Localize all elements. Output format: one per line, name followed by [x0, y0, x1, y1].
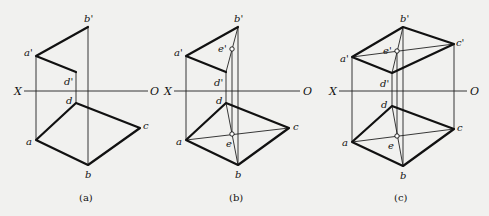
point-e-prime: [395, 49, 399, 53]
label-a: a: [342, 137, 348, 148]
panel-c: X O b' a' c' e' d' d a e b c (c): [328, 13, 479, 203]
label-b-prime: b': [234, 13, 243, 24]
label-a-prime: a': [340, 53, 349, 64]
label-c: c: [457, 122, 463, 133]
axis-label-x: X: [13, 85, 23, 98]
label-c-prime: c': [456, 37, 464, 48]
label-d-prime: d': [64, 76, 73, 87]
point-e: [395, 134, 399, 138]
projection-diagram: X O b' a' d' d a b c (a) X O: [0, 0, 489, 216]
label-a: a: [176, 136, 182, 147]
panel-b: X O b' a' e' d' d a e b c (b): [163, 13, 312, 203]
label-d: d: [216, 95, 222, 106]
frontal-projection-partial: [36, 27, 88, 72]
label-e-prime: e': [218, 43, 227, 54]
point-e-prime: [230, 47, 234, 51]
caption-b: (b): [229, 192, 243, 203]
label-b: b: [400, 170, 406, 181]
label-e: e: [226, 138, 232, 149]
label-b: b: [235, 169, 241, 180]
axis-label-o: O: [303, 85, 312, 98]
label-d: d: [381, 99, 387, 110]
label-a-prime: a': [174, 47, 183, 58]
axis-label-x: X: [163, 85, 173, 98]
axis-label-o: O: [470, 85, 479, 98]
label-b-prime: b': [400, 13, 409, 24]
point-e: [230, 132, 234, 136]
label-e-prime: e': [383, 45, 392, 56]
axis-label-x: X: [328, 85, 338, 98]
caption-c: (c): [394, 192, 408, 203]
label-e: e: [388, 140, 394, 151]
caption-a: (a): [79, 192, 93, 203]
label-c: c: [143, 120, 149, 131]
label-b-prime: b': [84, 13, 93, 24]
label-d-prime: d': [380, 78, 389, 89]
label-d-prime: d': [214, 77, 223, 88]
panel-a: X O b' a' d' d a b c (a): [13, 13, 159, 203]
label-c: c: [293, 121, 299, 132]
label-a-prime: a': [24, 47, 33, 58]
label-b: b: [85, 169, 91, 180]
label-a: a: [26, 136, 32, 147]
label-d: d: [66, 95, 72, 106]
axis-label-o: O: [150, 85, 159, 98]
